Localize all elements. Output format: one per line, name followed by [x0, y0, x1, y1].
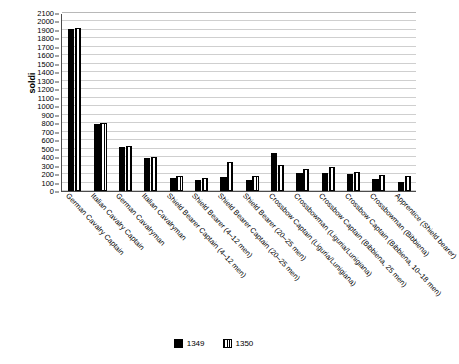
legend-label-1350: 1350 [236, 339, 254, 348]
legend-label-1349: 1349 [187, 339, 205, 348]
bar-1349 [170, 178, 176, 191]
y-axis-tick-label: 800 [41, 120, 54, 128]
x-axis-category-labels: German Cavalry CaptainItalian Cavalry Ca… [61, 192, 416, 322]
y-axis-tick-mark [55, 183, 59, 184]
bars-layer [62, 14, 416, 191]
y-axis-tick-mark [55, 14, 59, 15]
bar-1350 [151, 157, 157, 191]
y-axis-tick-mark [55, 22, 59, 23]
y-axis-tick-mark [55, 90, 59, 91]
y-axis-tick-label: 2000 [37, 19, 54, 27]
y-axis-tick-mark [55, 98, 59, 99]
bar-1350 [405, 176, 411, 191]
y-axis-tick-mark [55, 47, 59, 48]
y-axis-tick-mark [55, 56, 59, 57]
y-axis-tick-label: 1700 [37, 44, 54, 52]
legend-swatch-1349 [174, 339, 183, 348]
bar-1349 [271, 153, 277, 191]
bar-1350 [227, 162, 233, 191]
legend-swatch-1350 [223, 339, 232, 348]
bar-1350 [100, 123, 106, 191]
bar-1349 [220, 177, 226, 191]
bar-1349 [246, 180, 252, 191]
bar-1350 [75, 28, 81, 191]
y-axis-tick-mark [55, 149, 59, 150]
bar-1350 [329, 167, 335, 191]
y-axis-tick-mark [55, 39, 59, 40]
bar-1350 [278, 165, 284, 191]
bar-1349 [195, 180, 201, 191]
y-axis-tick-label: 700 [41, 129, 54, 137]
y-axis-tick-label: 1400 [37, 70, 54, 78]
bar-1350 [252, 176, 258, 191]
legend-item-1350: 1350 [223, 339, 254, 348]
bar-1350 [379, 175, 385, 191]
y-axis-tick-label: 1600 [37, 53, 54, 61]
bar-1349 [322, 173, 328, 191]
y-axis-tick-label: 400 [41, 154, 54, 162]
y-axis-tick-label: 600 [41, 137, 54, 145]
y-axis-tick-label: 100 [41, 180, 54, 188]
bar-1349 [372, 179, 378, 191]
y-axis-tick-label: 1300 [37, 78, 54, 86]
y-axis-tick-labels: 0100200300400500600700800900100011001200… [14, 14, 59, 192]
plot-area [61, 14, 416, 192]
y-axis-tick-mark [55, 192, 59, 193]
y-axis-tick-mark [55, 115, 59, 116]
y-axis-tick-mark [55, 141, 59, 142]
gridline [62, 12, 416, 13]
y-axis-tick-mark [55, 175, 59, 176]
y-axis-tick-label: 900 [41, 112, 54, 120]
bar-1349 [398, 182, 404, 191]
y-axis-tick-label: 1900 [37, 27, 54, 35]
bar-1350 [126, 146, 132, 191]
y-axis-tick-label: 1200 [37, 87, 54, 95]
legend-item-1349: 1349 [174, 339, 205, 348]
y-axis-tick-label: 200 [41, 171, 54, 179]
bar-1349 [68, 29, 74, 191]
bar-1350 [303, 169, 309, 191]
bar-1350 [176, 176, 182, 191]
y-axis-tick-label: 500 [41, 146, 54, 154]
y-axis-tick-mark [55, 30, 59, 31]
y-axis-tick-mark [55, 64, 59, 65]
y-axis-tick-mark [55, 132, 59, 133]
bar-1349 [347, 174, 353, 191]
y-axis-tick-mark [55, 124, 59, 125]
y-axis-tick-label: 1100 [38, 95, 54, 103]
y-axis-tick-mark [55, 81, 59, 82]
bar-1349 [119, 147, 125, 191]
y-axis-tick-label: 2100 [37, 10, 54, 18]
chart-legend: 1349 1350 [0, 339, 427, 348]
bar-1349 [296, 173, 302, 191]
y-axis-tick-mark [55, 73, 59, 74]
y-axis-tick-mark [55, 158, 59, 159]
x-axis-category-label: Italian Cavalryman [140, 192, 187, 242]
y-axis-tick-label: 1500 [37, 61, 54, 69]
y-axis-tick-label: 300 [41, 163, 54, 171]
bar-1349 [94, 124, 100, 191]
y-axis-tick-label: 0 [50, 188, 54, 196]
bar-1350 [354, 172, 360, 191]
y-axis-tick-mark [55, 166, 59, 167]
y-axis-tick-mark [55, 107, 59, 108]
y-axis-tick-label: 1000 [37, 103, 54, 111]
y-axis-tick-label: 1800 [37, 36, 54, 44]
bar-1350 [202, 178, 208, 191]
bar-1349 [144, 158, 150, 191]
